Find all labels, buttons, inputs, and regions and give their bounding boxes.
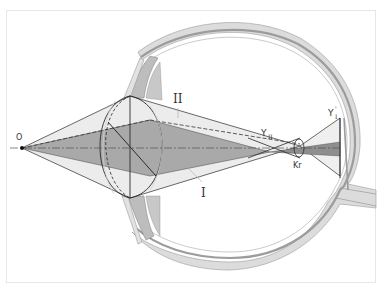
svg-text:II: II	[268, 133, 273, 140]
svg-text:Y: Y	[327, 108, 334, 118]
label-ray-bundle-2: II	[173, 92, 183, 106]
ciliary-body-bottom	[122, 196, 160, 244]
eye-optics-diagram: O II I Y II Y ' I Kr	[0, 0, 380, 291]
label-circle-of-confusion: Kr	[293, 161, 302, 170]
ciliary-body-top	[124, 56, 162, 100]
label-object-point: O	[16, 133, 22, 142]
svg-text:Y: Y	[260, 128, 267, 138]
svg-text:': '	[335, 105, 337, 112]
object-point	[20, 146, 24, 150]
label-image-point-1: Y ' I	[327, 105, 338, 120]
svg-text:I: I	[335, 113, 338, 120]
label-ray-bundle-1: I	[201, 186, 206, 200]
